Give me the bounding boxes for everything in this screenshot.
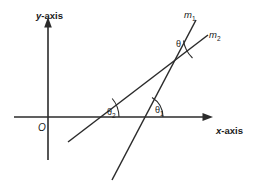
line-label-m1-subscript: 1 [192,15,196,22]
angle-label-theta1: θ1 [155,106,164,117]
geometry-figure [0,0,256,186]
angle-label-theta2-subscript: 2 [112,112,116,119]
line-label-m1: m1 [184,10,196,22]
y-axis-label: y-axis [36,11,63,21]
diagram-canvas: y-axis x-axis O m1 m2 θ θ1 θ2 [0,0,256,186]
x-axis-label: x-axis [216,126,243,136]
y-axis-label-suffix: -axis [41,10,63,21]
line-label-m1-name: m [184,9,192,20]
x-axis-arrowhead [203,113,214,121]
angle-label-theta2: θ2 [107,108,116,119]
line-m1 [112,20,196,180]
angle-label-theta1-subscript: 1 [160,110,164,117]
line-label-m2-name: m [209,29,217,40]
line-label-m2-subscript: 2 [217,35,221,42]
angle-label-theta-symbol: θ [176,39,181,49]
x-axis-label-suffix: -axis [221,125,243,136]
origin-label: O [38,123,46,133]
y-axis [44,17,52,160]
line-label-m2: m2 [209,30,221,42]
angle-label-theta: θ [176,40,181,49]
angle-arc-theta [184,41,193,59]
